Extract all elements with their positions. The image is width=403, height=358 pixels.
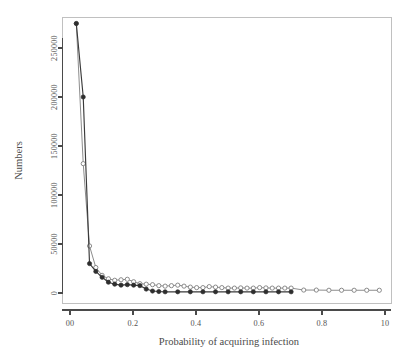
data-point-marker	[119, 278, 123, 282]
series-line	[76, 24, 379, 291]
data-point-marker	[94, 269, 98, 273]
data-point-marker	[182, 284, 186, 288]
data-point-marker	[119, 283, 123, 287]
data-point-marker	[81, 162, 85, 166]
data-point-marker	[176, 283, 180, 287]
data-point-marker	[188, 290, 192, 294]
x-tick-label: 0.4	[191, 319, 202, 328]
data-point-marker	[327, 288, 331, 292]
data-point-marker	[163, 290, 167, 294]
data-point-marker	[113, 282, 117, 286]
data-point-marker	[157, 289, 161, 293]
data-point-marker	[201, 290, 205, 294]
y-tick-label: 150000	[50, 133, 59, 159]
data-point-marker	[144, 287, 148, 291]
data-point-marker	[283, 286, 287, 290]
labels-layer: 050000100000150000200000250000000.20.40.…	[13, 35, 389, 347]
data-point-marker	[339, 288, 343, 292]
data-point-marker	[195, 286, 199, 290]
data-point-marker	[150, 283, 154, 287]
data-point-marker	[138, 284, 142, 288]
axes-layer	[58, 18, 392, 315]
y-axis-title: Numbers	[13, 141, 24, 180]
data-point-marker	[220, 286, 224, 290]
data-point-marker	[365, 288, 369, 292]
data-point-marker	[81, 95, 85, 99]
data-point-marker	[276, 290, 280, 294]
data-point-marker	[270, 286, 274, 290]
x-tick-label: 10	[381, 319, 390, 328]
data-point-marker	[258, 286, 262, 290]
series-layer	[74, 21, 381, 294]
data-point-marker	[245, 286, 249, 290]
x-axis-title: Probability of acquiring infection	[159, 336, 300, 347]
data-point-marker	[74, 21, 78, 25]
data-point-marker	[87, 262, 91, 266]
data-point-marker	[302, 288, 306, 292]
data-point-marker	[163, 284, 167, 288]
data-point-marker	[226, 290, 230, 294]
data-point-marker	[87, 244, 91, 248]
data-point-marker	[289, 290, 293, 294]
x-tick-label: 00	[66, 319, 75, 328]
y-tick-label: 100000	[50, 182, 59, 208]
x-tick-label: 0.6	[254, 319, 265, 328]
chart-plot-area: 050000100000150000200000250000000.20.40.…	[0, 0, 403, 358]
data-point-marker	[201, 286, 205, 290]
data-point-marker	[188, 285, 192, 289]
data-point-marker	[377, 288, 381, 292]
data-point-marker	[132, 283, 136, 287]
data-point-marker	[125, 283, 129, 287]
data-point-marker	[125, 277, 129, 281]
data-point-marker	[239, 290, 243, 294]
x-tick-label: 0.2	[128, 319, 139, 328]
data-point-marker	[314, 288, 318, 292]
y-tick-label: 250000	[50, 35, 59, 61]
data-point-marker	[144, 282, 148, 286]
data-point-marker	[100, 275, 104, 279]
data-point-marker	[169, 284, 173, 288]
data-point-marker	[176, 290, 180, 294]
data-point-marker	[251, 290, 255, 294]
data-point-marker	[239, 286, 243, 290]
data-point-marker	[150, 289, 154, 293]
data-point-marker	[352, 288, 356, 292]
y-tick-label: 200000	[50, 84, 59, 110]
plot-frame	[63, 18, 392, 304]
data-point-marker	[264, 290, 268, 294]
series-line	[76, 24, 291, 292]
data-point-marker	[213, 290, 217, 294]
chart-figure: 050000100000150000200000250000000.20.40.…	[0, 0, 403, 358]
data-point-marker	[106, 280, 110, 284]
y-tick-label: 50000	[50, 233, 59, 254]
y-tick-label: 0	[50, 291, 59, 295]
data-point-marker	[157, 284, 161, 288]
x-tick-label: 0.8	[317, 319, 328, 328]
data-point-marker	[264, 286, 268, 290]
data-point-marker	[207, 285, 211, 289]
data-point-marker	[232, 286, 236, 290]
data-point-marker	[213, 285, 217, 289]
